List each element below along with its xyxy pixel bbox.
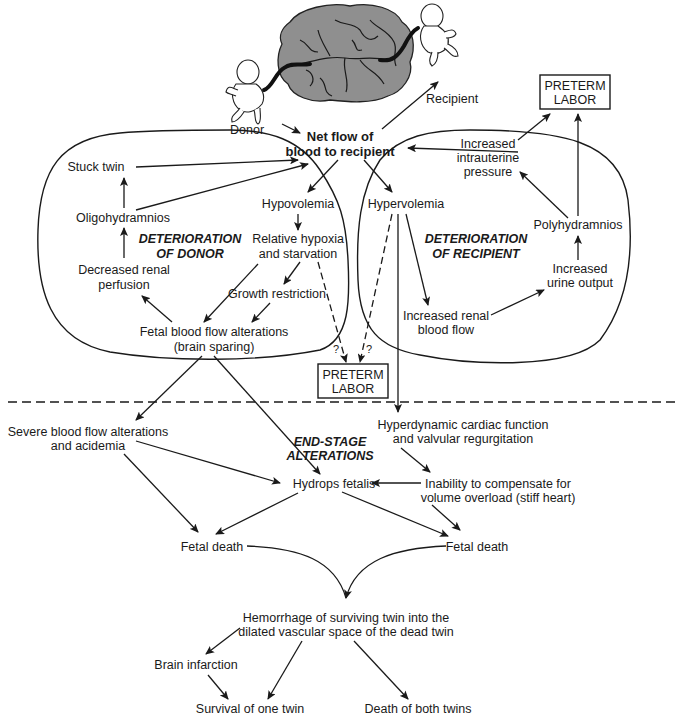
donor-section-title-line1: DETERIORATION (139, 232, 243, 246)
hyperdynamic-node-line2: and valvular regurgitation (393, 432, 533, 446)
renal-flow-node-line2: blood flow (418, 323, 475, 337)
recipient-section-title-line1: DETERIORATION (425, 232, 529, 246)
recipient-label: Recipient (426, 92, 479, 106)
hypervolemia-node: Hypervolemia (368, 197, 444, 211)
decreased-renal-node-line2: perfusion (98, 278, 149, 292)
placenta-icon (278, 5, 413, 102)
oligohydramnios-node: Oligohydramnios (76, 211, 170, 225)
renal-flow-node-line1: Increased renal (403, 309, 489, 323)
end-stage-title-line1: END-STAGE (294, 435, 367, 449)
inability-node-line1: Inability to compensate for (425, 477, 571, 491)
donor-twin-icon (226, 60, 264, 124)
severe-alterations-node-line1: Severe blood flow alterations (8, 425, 169, 439)
inability-node-line2: volume overload (stiff heart) (421, 491, 576, 505)
fetal-flow-node-line2: (brain sparing) (174, 340, 255, 354)
donor-section-title-line2: OF DONOR (156, 247, 223, 261)
preterm-mid-line2: LABOR (332, 382, 374, 396)
preterm-top-line1: PRETERM (544, 79, 605, 93)
survival-node: Survival of one twin (196, 702, 304, 716)
intrauterine-node-line3: pressure (464, 165, 513, 179)
decreased-renal-node-line1: Decreased renal (78, 263, 170, 277)
preterm-top-line2: LABOR (554, 93, 596, 107)
preterm-mid-line1: PRETERM (322, 368, 383, 382)
urine-output-node-line1: Increased (553, 262, 608, 276)
fetal-death-left-node: Fetal death (181, 540, 244, 554)
fetal-flow-node-line1: Fetal blood flow alterations (140, 325, 289, 339)
placenta-illustration: Donor Recipient (226, 4, 479, 137)
urine-output-node-line2: urine output (547, 276, 614, 290)
hemorrhage-node-line2: dilated vascular space of the dead twin (238, 625, 453, 639)
polyhydramnios-node: Polyhydramnios (534, 218, 623, 232)
recipient-section-title-line2: OF RECIPIENT (432, 247, 521, 261)
hypovolemia-node: Hypovolemia (262, 197, 334, 211)
fetal-death-right-node: Fetal death (446, 540, 509, 554)
question-mark-left: ? (333, 343, 339, 355)
brain-infarction-node: Brain infarction (154, 658, 237, 672)
intrauterine-node-line2: intrauterine (457, 151, 520, 165)
ttts-pathophysiology-diagram: Donor Recipient Net flow of blood to rec… (0, 0, 678, 722)
question-mark-right: ? (366, 343, 372, 355)
preterm-labor-top-box: PRETERM LABOR (540, 75, 610, 109)
hydrops-fetalis-node: Hydrops fetalis (293, 477, 376, 491)
growth-restriction-node: Growth restriction (228, 287, 326, 301)
hypoxia-node-line1: Relative hypoxia (252, 232, 344, 246)
net-flow-node-line2: blood to recipient (285, 144, 395, 159)
intrauterine-node-line1: Increased (461, 137, 516, 151)
hypoxia-node-line2: and starvation (259, 247, 338, 261)
severe-alterations-node-line2: and acidemia (51, 439, 125, 453)
preterm-labor-mid-box: PRETERM LABOR (318, 364, 388, 398)
hyperdynamic-node-line1: Hyperdynamic cardiac function (378, 418, 549, 432)
net-flow-node-line1: Net flow of (307, 129, 374, 144)
recipient-twin-icon (421, 4, 458, 66)
hemorrhage-node-line1: Hemorrhage of surviving twin into the (243, 611, 449, 625)
stuck-twin-node: Stuck twin (68, 160, 125, 174)
death-both-node: Death of both twins (364, 702, 471, 716)
